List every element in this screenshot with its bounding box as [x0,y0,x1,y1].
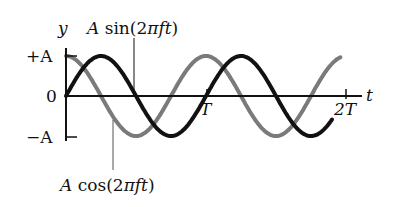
plus-a-label: +A [26,46,53,66]
tick-2T-label: 2T [333,99,358,119]
t-axis-label: t [366,85,373,105]
cos-label: A cos(2πft) [58,175,155,195]
sin-label: A sin(2πft) [85,18,178,38]
minus-a-label: −A [26,127,53,147]
y-axis-label: y [57,18,68,38]
zero-label: 0 [46,86,57,106]
sine-cosine-diagram: y t +A 0 −A T 2T A sin(2πft) A cos(2πft) [0,0,393,207]
tick-T-label: T [200,99,213,119]
